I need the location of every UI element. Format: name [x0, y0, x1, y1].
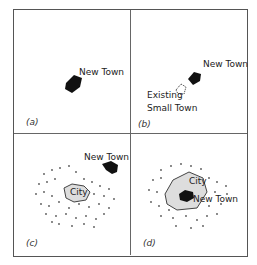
- city-label: City: [70, 187, 88, 197]
- panel-b: New Town Existing Small Town (b): [131, 10, 247, 134]
- panel-tag: (c): [26, 238, 38, 248]
- panel-d: City New Town (d): [131, 134, 247, 255]
- towns-shapes: [131, 10, 247, 134]
- panel-tag: (a): [26, 117, 39, 127]
- panel-tag: (d): [143, 238, 156, 248]
- new-town-label: New Town: [84, 152, 129, 162]
- new-town-label: New Town: [79, 67, 124, 77]
- city-label: City: [189, 176, 207, 186]
- small-town-label: Small Town: [147, 103, 197, 113]
- panel-tag: (b): [138, 119, 151, 129]
- figure-frame: New Town (a) New Town Existing Small Tow…: [13, 9, 248, 257]
- new-town-label: New Town: [193, 194, 238, 204]
- panel-c: City New Town (c): [14, 134, 131, 255]
- panel-a: New Town (a): [14, 10, 131, 134]
- new-town-label: New Town: [203, 59, 248, 69]
- existing-label: Existing: [147, 90, 183, 100]
